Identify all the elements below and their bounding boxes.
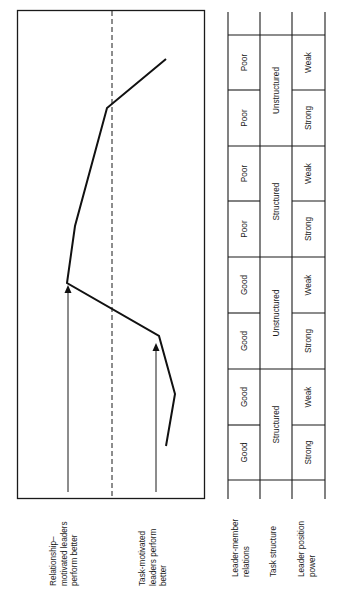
lpp-cell: Strong — [304, 105, 313, 130]
lmr-cell: Poor — [240, 220, 249, 238]
label-line: relations — [242, 519, 253, 577]
label-line: power — [308, 521, 319, 577]
contingency-model-figure: GoodGoodGoodGoodPoorPoorPoorPoorStrongWe… — [0, 0, 344, 606]
task-structure-cell: Unstructured — [272, 289, 281, 336]
lpp-cell: Weak — [304, 386, 313, 408]
task-structure-cell: Unstructured — [272, 67, 281, 114]
label-line: Task-motivated — [138, 529, 149, 586]
lmr-cell: Poor — [240, 109, 249, 127]
leader-member-relations-label: Leader-member relations — [231, 519, 252, 577]
lpp-cell: Strong — [304, 328, 313, 353]
lmr-cell: Good — [240, 331, 249, 351]
label-line: leaders perform — [149, 529, 160, 586]
lpc-performance-line — [67, 59, 175, 446]
lmr-cell: Good — [240, 387, 249, 407]
lmr-cell: Good — [240, 275, 249, 295]
task-arrow-icon — [153, 343, 160, 351]
chart-svg: GoodGoodGoodGoodPoorPoorPoorPoorStrongWe… — [0, 0, 344, 606]
label-line: Task structure — [269, 526, 280, 577]
lpp-cell: Weak — [304, 162, 313, 184]
lpp-cell: Strong — [304, 440, 313, 465]
lpp-cell: Weak — [304, 51, 313, 73]
label-line: perform better — [70, 521, 81, 586]
relationship-motivated-label: Relationship– motivated leaders perform … — [49, 521, 81, 586]
lmr-cell: Poor — [240, 165, 249, 183]
task-structure-label: Task structure — [269, 526, 280, 577]
label-line: Leader position — [297, 521, 308, 577]
task-structure-cell: Structured — [272, 405, 281, 443]
lmr-cell: Good — [240, 442, 249, 462]
leader-position-power-label: Leader position power — [297, 521, 318, 577]
label-line: motivated leaders — [60, 521, 71, 586]
lpp-cell: Strong — [304, 216, 313, 241]
label-line: Relationship– — [49, 521, 60, 586]
lmr-cell: Poor — [240, 54, 249, 72]
lpp-cell: Weak — [304, 274, 313, 296]
plot-frame — [18, 11, 205, 499]
relationship-arrow-icon — [65, 285, 72, 293]
condition-table-text: GoodGoodGoodGoodPoorPoorPoorPoorStrongWe… — [240, 51, 314, 464]
label-line: Leader-member — [231, 519, 242, 577]
task-structure-cell: Structured — [272, 182, 281, 220]
task-motivated-label: Task-motivated leaders perform better — [138, 529, 170, 586]
label-line: better — [159, 529, 170, 586]
